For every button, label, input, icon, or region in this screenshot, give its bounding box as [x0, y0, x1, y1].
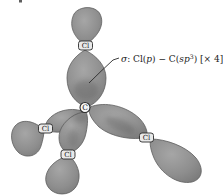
chlorine-label-left: Cl: [39, 124, 53, 133]
chlorine-label-text-left: Cl: [42, 125, 50, 133]
chlorine-p-back-lobe-bottom: [46, 156, 79, 194]
shading-top-bond: [74, 80, 98, 100]
shading-bottom-bond: [67, 129, 79, 147]
shading-center-junction: [73, 113, 87, 123]
ccl4-orbital-svg: σ: Cl(p) − C(sp3) [× 4] Cl Cl Cl Cl C: [0, 0, 223, 195]
annotation-suffix: ) [× 4]: [194, 54, 223, 64]
annotation-prefix: : Cl(: [127, 54, 146, 64]
chlorine-label-text-top: Cl: [82, 42, 90, 50]
chlorine-label-bottom: Cl: [61, 150, 75, 159]
annotation-mid: ) − C(: [152, 54, 179, 64]
chlorine-p-back-lobe-right: [150, 139, 201, 182]
carbon-label-text: C: [82, 103, 88, 112]
carbon-label-center: C: [80, 103, 90, 113]
annotation-sp-hybrid: sp: [179, 54, 190, 64]
orbital-diagram-figure: σ: Cl(p) − C(sp3) [× 4] Cl Cl Cl Cl C: [0, 0, 223, 195]
sigma-bond-annotation: σ: Cl(p) − C(sp3) [× 4]: [121, 53, 223, 64]
chlorine-p-back-lobe-top: [72, 8, 102, 45]
chlorine-label-text-bottom: Cl: [64, 151, 72, 159]
chlorine-label-text-right: Cl: [143, 134, 151, 142]
chlorine-label-right: Cl: [140, 133, 154, 142]
page-artifact-dot: [19, 0, 22, 3]
chlorine-label-top: Cl: [79, 41, 93, 50]
